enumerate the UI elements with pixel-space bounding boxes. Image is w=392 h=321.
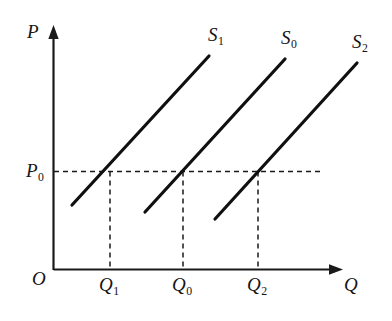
price-level-label-p0: P0: [26, 161, 44, 180]
x-axis-title: Q: [344, 275, 358, 294]
tick-label-q2: Q2: [247, 275, 267, 294]
curve-label-s1: S1: [208, 25, 223, 44]
origin-label: O: [32, 269, 46, 288]
curve-letter-s2: S: [352, 31, 362, 52]
tick-letter-q1: Q: [99, 274, 113, 295]
curve-subscript-s2: 2: [362, 42, 368, 55]
y-axis-title: P: [27, 22, 39, 41]
tick-label-q0: Q0: [172, 275, 192, 294]
supply-shift-figure: P Q O P0 Q1 Q0 Q2 S1 S0 S2: [0, 0, 392, 321]
price-level-subscript: 0: [38, 171, 44, 184]
price-level-letter: P: [26, 160, 38, 181]
supply-curve-s0: [145, 59, 285, 212]
curve-letter-s0: S: [281, 27, 291, 48]
figure-canvas: [0, 0, 392, 321]
tick-subscript-q1: 1: [113, 285, 119, 298]
tick-letter-q0: Q: [172, 274, 186, 295]
curve-subscript-s0: 0: [291, 38, 297, 51]
tick-subscript-q2: 2: [261, 285, 267, 298]
curve-label-s0: S0: [281, 28, 296, 47]
supply-curve-s2: [215, 63, 357, 219]
supply-curve-s1: [72, 56, 209, 205]
tick-letter-q2: Q: [247, 274, 261, 295]
curve-letter-s1: S: [208, 24, 218, 45]
curve-subscript-s1: 1: [218, 35, 224, 48]
y-axis-arrowhead: [48, 25, 58, 39]
curve-label-s2: S2: [352, 32, 367, 51]
x-axis-arrowhead: [329, 264, 343, 274]
tick-label-q1: Q1: [99, 275, 119, 294]
tick-subscript-q0: 0: [186, 285, 192, 298]
